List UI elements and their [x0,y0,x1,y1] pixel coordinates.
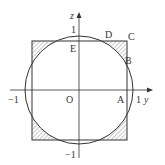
y-axis-arrow [147,88,153,93]
point-A: A [117,94,125,105]
point-E: E [70,43,76,54]
diagram: z y 1 −1 −1 1 O A B C D E [0,0,165,165]
point-B: B [125,55,132,66]
tick-y-neg1: −1 [8,94,19,105]
y-axis-label: y [143,94,149,105]
z-axis-label: z [69,10,74,21]
point-C: C [128,31,135,42]
z-axis-arrow [77,12,82,18]
point-D: D [105,29,112,40]
shaded-corners [32,41,127,140]
tick-z-1: 1 [71,24,76,35]
point-O: O [66,94,73,105]
tick-z-neg1: −1 [65,149,76,160]
tick-y-1: 1 [136,94,141,105]
